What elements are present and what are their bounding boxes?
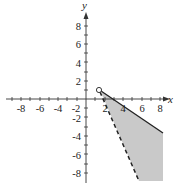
svg-text:8: 8	[157, 103, 162, 114]
svg-text:-4: -4	[72, 131, 81, 142]
x-tick-labels: -8 -6 -4 -2 2 4 6 8	[17, 103, 163, 114]
y-axis-arrow-icon	[84, 12, 89, 19]
svg-text:-8: -8	[72, 168, 81, 179]
svg-text:6: 6	[139, 103, 144, 114]
svg-text:-8: -8	[17, 103, 26, 114]
svg-text:6: 6	[76, 39, 81, 50]
svg-text:-6: -6	[72, 150, 81, 161]
shaded-region	[100, 90, 163, 181]
svg-text:-6: -6	[36, 103, 45, 114]
inequality-graph: -8 -6 -4 -2 2 4 6 8 8 6 4 2 -2 -4 -6 -8 …	[0, 0, 175, 183]
svg-text:-2: -2	[72, 113, 81, 124]
x-axis-label: x	[167, 93, 173, 105]
y-axis-label: y	[81, 0, 87, 11]
svg-text:8: 8	[76, 21, 81, 32]
svg-text:2: 2	[76, 76, 81, 87]
svg-text:-4: -4	[54, 103, 63, 114]
svg-text:4: 4	[76, 58, 82, 69]
open-vertex-point	[96, 87, 101, 92]
